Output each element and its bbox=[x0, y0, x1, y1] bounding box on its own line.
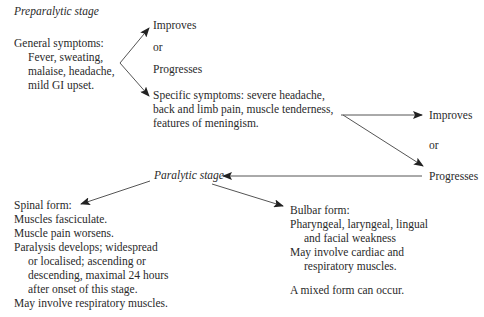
general-symptoms: General symptoms: Fever, sweating, malai… bbox=[14, 36, 115, 92]
specific-symptoms: Specific symptoms: severe headache, back… bbox=[153, 88, 333, 130]
preparalytic-stage-title: Preparalytic stage bbox=[14, 4, 99, 18]
outcome2-improves: Improves bbox=[429, 108, 472, 122]
specific-line: Specific symptoms: severe headache, bbox=[153, 88, 333, 102]
general-line: malaise, headache, bbox=[14, 64, 115, 78]
arrow-to-specific bbox=[120, 63, 149, 96]
arrow-to-progresses-2 bbox=[343, 115, 423, 166]
spinal-line: or localised; ascending or bbox=[14, 254, 169, 268]
specific-line: back and limb pain, muscle tenderness, bbox=[153, 102, 333, 116]
bulbar-heading: Bulbar form: bbox=[290, 203, 428, 217]
bulbar-line: respiratory muscles. bbox=[290, 259, 428, 273]
outcome2-or: or bbox=[429, 138, 439, 152]
outcome1-improves: Improves bbox=[153, 18, 196, 32]
bulbar-line: May involve cardiac and bbox=[290, 245, 428, 259]
spinal-line: Muscles fasciculate. bbox=[14, 212, 169, 226]
spinal-line: descending, maximal 24 hours bbox=[14, 268, 169, 282]
spinal-heading: Spinal form: bbox=[14, 198, 169, 212]
outcome1-progresses: Progresses bbox=[153, 62, 202, 76]
general-heading: General symptoms: bbox=[14, 36, 115, 50]
spinal-line: Muscle pain worsens. bbox=[14, 226, 169, 240]
specific-line: features of meningism. bbox=[153, 116, 333, 130]
spinal-line: May involve respiratory muscles. bbox=[14, 296, 169, 310]
arrow-to-improves-1 bbox=[120, 28, 149, 63]
arrow-to-bulbar bbox=[212, 184, 283, 206]
bulbar-line: Pharyngeal, laryngeal, lingual bbox=[290, 217, 428, 231]
mixed-form-note: A mixed form can occur. bbox=[290, 283, 428, 297]
spinal-line: Paralysis develops; widespread bbox=[14, 240, 169, 254]
general-line: mild GI upset. bbox=[14, 78, 115, 92]
bulbar-line: and facial weakness bbox=[290, 231, 428, 245]
spinal-line: after onset of this stage. bbox=[14, 282, 169, 296]
spinal-form: Spinal form: Muscles fasciculate. Muscle… bbox=[14, 198, 169, 310]
outcome1-or: or bbox=[153, 40, 163, 54]
bulbar-form: Bulbar form: Pharyngeal, laryngeal, ling… bbox=[290, 203, 428, 297]
paralytic-stage-title: Paralytic stage bbox=[154, 168, 224, 182]
general-line: Fever, sweating, bbox=[14, 50, 115, 64]
outcome2-progresses: Progresses bbox=[429, 169, 478, 183]
